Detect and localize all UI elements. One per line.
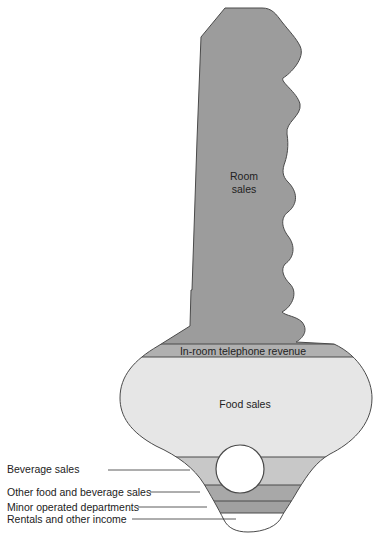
food-sales-label: Food sales	[200, 398, 290, 411]
minor-depts-label: Minor operated departments	[7, 501, 139, 513]
room-sales-band	[0, 0, 373, 344]
telephone-label: In-room telephone revenue	[168, 345, 318, 358]
key-diagram	[0, 0, 373, 538]
rentals-label: Rentals and other income	[7, 513, 127, 525]
key-hole	[216, 445, 264, 493]
beverage-label: Beverage sales	[7, 463, 79, 475]
food-sales-band	[0, 357, 373, 457]
other-fb-label: Other food and beverage sales	[7, 486, 151, 498]
room-sales-label: Room sales	[222, 170, 266, 196]
